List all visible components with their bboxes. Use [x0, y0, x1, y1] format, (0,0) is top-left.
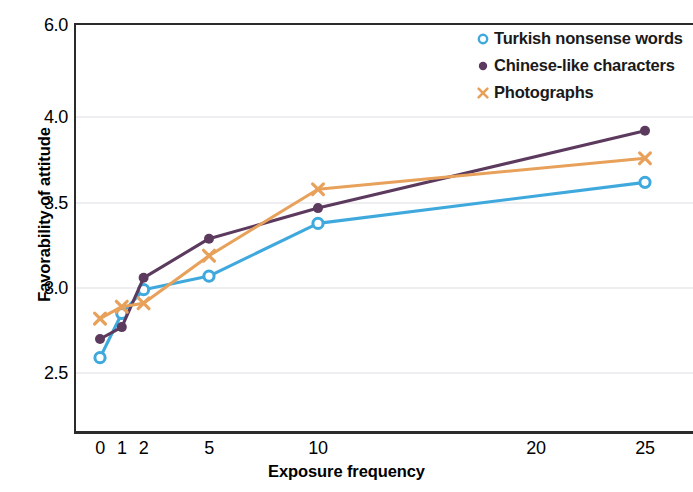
chart-figure: Favorability of attitude 6.04.03.53.02.5… [0, 0, 693, 492]
data-point-marker [95, 353, 105, 363]
data-point-marker [640, 177, 650, 187]
data-point-marker [95, 334, 105, 344]
legend-item-label: Chinese-like characters [494, 56, 675, 75]
series-line [100, 158, 645, 318]
x-axis-title: Exposure frequency [0, 462, 693, 481]
legend-item: Turkish nonsense words [472, 26, 683, 51]
data-point-marker [313, 203, 323, 213]
data-point-marker [204, 250, 215, 261]
data-point-marker [95, 313, 106, 324]
series-1 [95, 126, 650, 344]
data-point-marker [139, 273, 149, 283]
series-0 [95, 177, 650, 363]
data-point-marker [313, 218, 323, 228]
series-line [100, 131, 645, 339]
cross-x-icon [472, 85, 494, 101]
legend-item-label: Photographs [494, 83, 594, 102]
data-point-marker [640, 126, 650, 136]
data-point-marker [204, 271, 214, 281]
data-point-marker [204, 234, 214, 244]
legend-item: Chinese-like characters [472, 53, 683, 78]
series-2 [95, 153, 651, 324]
series-line [100, 182, 645, 357]
data-point-marker [117, 322, 127, 332]
legend-item: Photographs [472, 80, 683, 105]
legend-item-label: Turkish nonsense words [494, 29, 683, 48]
chart-legend: Turkish nonsense wordsChinese-like chara… [472, 26, 683, 105]
open-circle-icon [472, 31, 494, 47]
filled-circle-icon [472, 58, 494, 74]
